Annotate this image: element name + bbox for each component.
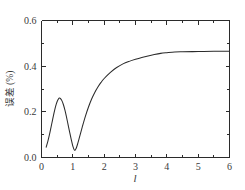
y-tick-label-2: 0.4: [24, 61, 37, 72]
x-tick-label-0: 0: [39, 161, 44, 172]
x-axis-title: l: [133, 172, 136, 184]
chart-figure: 0123456 0.00.20.40.6 l 误差 (%): [0, 0, 245, 190]
error-vs-l-line-chart: 0123456 0.00.20.40.6 l 误差 (%): [0, 0, 245, 190]
x-tick-label-3: 3: [133, 161, 138, 172]
x-tick-label-4: 4: [164, 161, 169, 172]
y-tick-label-1: 0.2: [24, 106, 37, 117]
x-tick-label-5: 5: [196, 161, 201, 172]
y-axis-title: 误差 (%): [4, 71, 16, 108]
x-tick-label-1: 1: [70, 161, 75, 172]
y-tick-label-0: 0.0: [24, 152, 37, 163]
x-tick-label-6: 6: [227, 161, 232, 172]
plot-background: [0, 0, 245, 190]
x-tick-label-2: 2: [102, 161, 107, 172]
y-tick-label-3: 0.6: [24, 15, 37, 26]
